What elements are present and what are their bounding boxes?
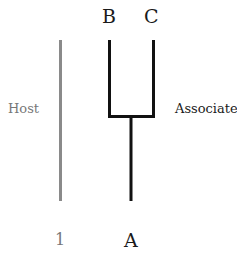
host-taxon-label: 1 — [55, 232, 65, 248]
phylogeny-diagram — [0, 0, 237, 259]
associate-label: Associate — [175, 102, 237, 115]
tip-label-c: C — [144, 7, 159, 26]
associate-tree-branches — [110, 40, 154, 117]
root-label-a: A — [124, 231, 138, 250]
host-label: Host — [8, 102, 39, 115]
tip-label-b: B — [102, 7, 116, 26]
